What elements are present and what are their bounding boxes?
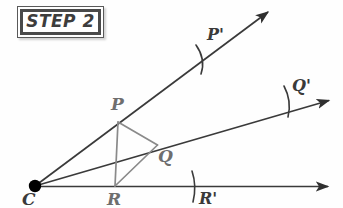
point-label-R-prime: R': [199, 191, 217, 207]
point-label-P: P: [111, 96, 124, 113]
step-badge-border: STEP 2: [20, 9, 101, 35]
point-label-R: R: [107, 191, 121, 208]
segment-QR: [115, 145, 158, 186]
point-label-Q-prime: Q': [292, 78, 311, 94]
arc-tick-P-prime: [196, 45, 203, 74]
segment-RP: [115, 122, 118, 186]
point-label-Q: Q: [158, 148, 173, 165]
step-badge-label: STEP 2: [26, 13, 95, 30]
segment-PQ: [118, 122, 158, 145]
ray-group: [35, 12, 329, 187]
triangle-PQR: [115, 122, 158, 186]
step-badge: STEP 2: [17, 6, 104, 38]
diagram-canvas: STEP 2 P Q R P' Q' R' C: [0, 0, 343, 208]
construction-marks: [192, 45, 289, 202]
point-label-C: C: [22, 191, 36, 208]
point-label-P-prime: P': [207, 27, 224, 43]
middle-ray: [35, 101, 329, 187]
upper-ray: [35, 12, 268, 186]
